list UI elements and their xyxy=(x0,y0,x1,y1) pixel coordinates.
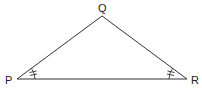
triangle-pqr xyxy=(17,16,187,79)
vertex-label-p: P xyxy=(5,74,12,86)
vertex-label-r: R xyxy=(191,74,199,86)
angle-mark-p xyxy=(30,68,38,79)
angle-mark-r xyxy=(167,68,175,79)
vertex-label-q: Q xyxy=(98,2,107,14)
triangle-diagram: Q P R xyxy=(0,0,202,101)
